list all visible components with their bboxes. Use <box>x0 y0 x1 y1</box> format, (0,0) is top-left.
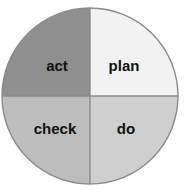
pdca-circle-svg: act plan check do <box>0 0 184 190</box>
quadrant-label-check: check <box>34 120 77 137</box>
quadrant-do[interactable] <box>90 96 178 184</box>
quadrant-check[interactable] <box>2 96 90 184</box>
quadrant-label-plan: plan <box>109 57 140 74</box>
quadrant-label-act: act <box>46 57 68 74</box>
quadrant-label-do: do <box>117 120 135 137</box>
pdca-cycle-diagram: act plan check do <box>0 0 184 190</box>
quadrant-act[interactable] <box>2 8 90 96</box>
quadrant-plan[interactable] <box>90 8 178 96</box>
